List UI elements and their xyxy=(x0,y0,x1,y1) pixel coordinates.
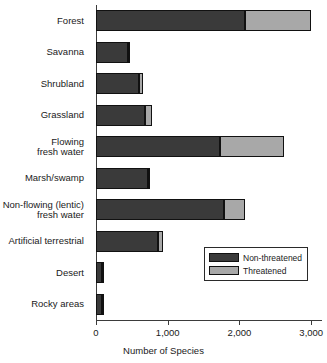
bar-segment-non-threatened xyxy=(96,168,148,189)
x-axis-tick-label: 1,000 xyxy=(156,327,180,338)
category-label: Shrubland xyxy=(41,79,84,90)
bar-row xyxy=(96,73,322,94)
bar-segment-threatened xyxy=(158,231,162,252)
bar-row xyxy=(96,199,322,220)
bar-segment-non-threatened xyxy=(96,10,245,31)
bar-segment-threatened xyxy=(220,136,284,157)
species-habitat-bar-chart: ForestSavannaShrublandGrasslandFlowing f… xyxy=(0,0,327,363)
x-axis-tick xyxy=(239,320,240,325)
bar-segment-non-threatened xyxy=(96,136,220,157)
category-label: Rocky areas xyxy=(31,299,84,310)
category-axis-labels: ForestSavannaShrublandGrasslandFlowing f… xyxy=(0,5,88,320)
bar-segment-threatened xyxy=(102,294,104,315)
bar-segment-threatened xyxy=(148,168,150,189)
category-label: Non-flowing (lentic) fresh water xyxy=(3,199,84,220)
bar-row xyxy=(96,294,322,315)
x-axis-tick xyxy=(168,320,169,325)
category-label: Marsh/swamp xyxy=(25,173,84,184)
category-label: Grassland xyxy=(41,110,84,121)
category-label: Flowing fresh water xyxy=(37,136,84,157)
bar-segment-threatened xyxy=(145,105,152,126)
x-axis-tick-label: 0 xyxy=(93,327,98,338)
x-axis-tick xyxy=(96,320,97,325)
bar-segment-threatened xyxy=(245,10,312,31)
category-label: Desert xyxy=(56,268,84,279)
category-label: Savanna xyxy=(46,47,84,58)
bar-segment-non-threatened xyxy=(96,231,158,252)
bar-row xyxy=(96,10,322,31)
x-axis-tick xyxy=(311,320,312,325)
legend-swatch-non-threatened xyxy=(209,253,239,262)
legend-item-non-threatened: Non-threatened xyxy=(209,252,302,263)
bar-segment-non-threatened xyxy=(96,105,145,126)
bar-segment-non-threatened xyxy=(96,199,224,220)
bar-row xyxy=(96,105,322,126)
legend-label-non-threatened: Non-threatened xyxy=(243,253,302,263)
bar-segment-threatened xyxy=(139,73,143,94)
bar-row xyxy=(96,168,322,189)
bar-segment-non-threatened xyxy=(96,73,139,94)
chart-legend: Non-threatened Threatened xyxy=(204,247,308,281)
x-axis-tick-label: 3,000 xyxy=(299,327,323,338)
category-label: Forest xyxy=(57,16,84,27)
legend-item-threatened: Threatened xyxy=(209,265,302,276)
x-axis-line xyxy=(96,320,322,321)
bar-row xyxy=(96,42,322,63)
legend-label-threatened: Threatened xyxy=(243,266,286,276)
bar-row xyxy=(96,136,322,157)
category-label: Artificial terrestrial xyxy=(9,236,85,247)
bar-segment-threatened xyxy=(128,42,130,63)
x-axis-tick-label: 2,000 xyxy=(228,327,252,338)
legend-swatch-threatened xyxy=(209,266,239,275)
bar-segment-non-threatened xyxy=(96,42,128,63)
x-axis-title: Number of Species xyxy=(0,345,327,356)
bar-segment-threatened xyxy=(102,262,104,283)
bar-segment-threatened xyxy=(224,199,244,220)
